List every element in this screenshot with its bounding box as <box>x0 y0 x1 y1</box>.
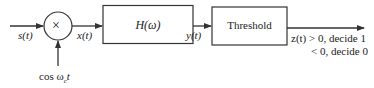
block-diagram: s(t) × x(t) cos ωct H(ω) y(t) Threshold … <box>0 0 374 88</box>
threshold-label: Threshold <box>212 20 287 31</box>
mixer-output-label: x(t) <box>77 30 92 41</box>
oscillator-label: cos ωct <box>39 71 70 85</box>
decision-line-2: < 0, decide 0 <box>311 46 368 57</box>
mixer-symbol: × <box>52 19 60 33</box>
filter-output-label: y(t) <box>186 30 201 41</box>
filter-label: H(ω) <box>103 19 193 31</box>
input-signal-label: s(t) <box>18 30 33 41</box>
decision-line-1: z(t) > 0, decide 1 <box>291 33 366 44</box>
